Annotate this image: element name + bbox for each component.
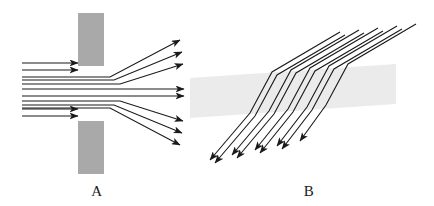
panel-b-label: B <box>304 183 315 199</box>
panel-a-label: A <box>91 183 102 199</box>
barrier-lower-block <box>78 121 104 174</box>
physics-figure: A B <box>0 0 434 206</box>
figure-root: A B <box>0 0 434 206</box>
barrier-upper-block <box>78 13 104 66</box>
